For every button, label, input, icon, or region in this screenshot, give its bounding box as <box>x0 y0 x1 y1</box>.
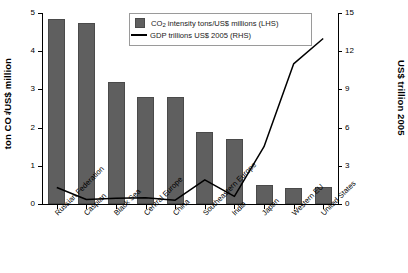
right-axis-line <box>338 13 339 204</box>
legend-item-co2-intensity: CO2 intensity tons/US$ millions (LHS) <box>135 17 306 29</box>
right-axis-tick-label: 12 <box>345 47 354 55</box>
right-axis-tick-label: 0 <box>345 200 349 208</box>
legend-item-gdp: GDP trillions US$ 2005 (RHS) <box>135 29 306 41</box>
legend: CO2 intensity tons/US$ millions (LHS) GD… <box>129 13 312 46</box>
co2-intensity-gdp-chart: ton CO2/US$ million US$ trillion 2005 01… <box>0 0 408 273</box>
tick-mark <box>338 166 342 167</box>
left-axis-tick-label: 4 <box>31 47 35 55</box>
legend-square-swatch-icon <box>135 18 145 28</box>
legend-label-co2-intensity: CO2 intensity tons/US$ millions (LHS) <box>151 19 278 28</box>
tick-mark <box>38 204 42 205</box>
right-axis-title: US$ trillion 2005 <box>396 60 407 136</box>
tick-mark <box>338 128 342 129</box>
tick-mark <box>338 204 342 205</box>
tick-mark <box>338 51 342 52</box>
left-axis-title: ton CO2/US$ million <box>2 58 13 149</box>
tick-mark <box>338 89 342 90</box>
right-axis-tick-label: 15 <box>345 9 354 17</box>
left-axis-tick-label: 0 <box>31 200 35 208</box>
left-axis-tick-label: 3 <box>31 85 35 93</box>
left-axis-tick-label: 2 <box>31 124 35 132</box>
left-axis-tick-label: 5 <box>31 9 35 17</box>
right-axis-tick-label: 3 <box>345 162 349 170</box>
right-axis-tick-label: 9 <box>345 85 349 93</box>
tick-mark <box>338 13 342 14</box>
legend-label-gdp: GDP trillions US$ 2005 (RHS) <box>150 31 251 40</box>
legend-line-icon <box>131 34 147 36</box>
left-axis-tick-label: 1 <box>31 162 35 170</box>
right-axis-tick-label: 6 <box>345 124 349 132</box>
